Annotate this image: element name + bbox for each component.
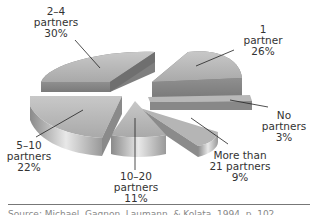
source-note: Source: Michael, Gagnon, Laumann, & Kola… — [8, 209, 274, 215]
label-pct: 11% — [110, 193, 162, 204]
label-no-partners: No partners 3% — [254, 110, 314, 143]
label-pct: 30% — [31, 28, 81, 39]
label-more-than-21: More than 21 partners 9% — [205, 150, 275, 183]
label-10-20-partners: 10–20 partners 11% — [110, 171, 162, 204]
divider-rule — [8, 204, 310, 205]
slice-no-partners — [148, 95, 252, 110]
label-1-partner: 1 partner 26% — [233, 24, 293, 57]
label-5-10-partners: 5–10 partners 22% — [4, 140, 54, 173]
label-pct: 22% — [4, 162, 54, 173]
label-pct: 9% — [205, 172, 275, 183]
label-pct: 3% — [254, 132, 314, 143]
label-2-4-partners: 2–4 partners 30% — [31, 6, 81, 39]
label-pct: 26% — [233, 46, 293, 57]
slice-2-4-partners — [41, 52, 155, 92]
slice-1-partner — [152, 51, 242, 98]
